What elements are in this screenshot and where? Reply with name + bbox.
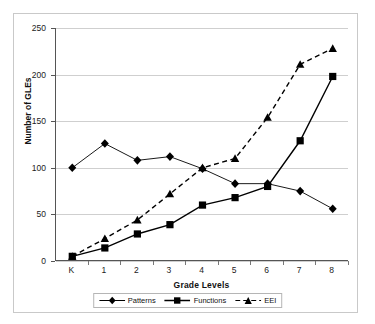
x-tick-label: 8 xyxy=(329,266,334,275)
y-tick-label: 0 xyxy=(8,257,46,266)
square-marker xyxy=(166,221,173,228)
square-icon xyxy=(165,296,191,305)
x-tick-label: 2 xyxy=(134,266,139,275)
diamond-marker xyxy=(231,179,239,188)
diamond-marker xyxy=(329,205,337,214)
x-tick-label: 6 xyxy=(264,266,269,275)
diamond-marker xyxy=(133,156,141,165)
diamond-marker xyxy=(296,187,304,196)
triangle-marker xyxy=(296,60,304,68)
diamond-marker xyxy=(68,164,76,173)
x-tick-label: 3 xyxy=(167,266,172,275)
series-line xyxy=(72,49,332,257)
legend-item-functions: Functions xyxy=(165,296,227,305)
x-tick-label: K xyxy=(68,266,74,275)
y-tick-label: 250 xyxy=(8,24,46,33)
diamond-icon xyxy=(99,296,125,305)
gridline xyxy=(56,261,348,262)
square-marker xyxy=(101,244,108,251)
y-tick-mark xyxy=(51,261,55,262)
x-tick-label: 5 xyxy=(232,266,237,275)
x-tick-mark xyxy=(250,261,251,265)
series-layer xyxy=(56,28,349,261)
plot-area xyxy=(55,28,348,261)
series-eei xyxy=(68,44,337,259)
x-axis-title: Grade Levels xyxy=(55,280,348,290)
square-marker xyxy=(329,73,336,80)
triangle-icon xyxy=(235,296,261,305)
legend-item-eei: EEI xyxy=(235,296,276,305)
x-tick-mark xyxy=(218,261,219,265)
x-tick-mark xyxy=(120,261,121,265)
y-tick-label: 100 xyxy=(8,164,46,173)
x-tick-mark xyxy=(348,261,349,265)
triangle-marker xyxy=(329,44,337,52)
x-tick-mark xyxy=(283,261,284,265)
legend-label-patterns: Patterns xyxy=(128,297,156,305)
legend-label-functions: Functions xyxy=(194,297,227,305)
y-tick-label: 200 xyxy=(8,71,46,80)
y-tick-label: 150 xyxy=(8,117,46,126)
x-tick-mark xyxy=(153,261,154,265)
square-marker xyxy=(134,230,141,237)
x-tick-label: 4 xyxy=(199,266,204,275)
y-tick-label: 50 xyxy=(8,210,46,219)
x-tick-label: 1 xyxy=(101,266,106,275)
x-tick-label: 7 xyxy=(297,266,302,275)
square-marker xyxy=(231,194,238,201)
triangle-marker xyxy=(101,234,109,242)
x-tick-mark xyxy=(185,261,186,265)
diamond-marker xyxy=(166,152,174,161)
chart-legend: Patterns Functions EEI xyxy=(93,293,283,308)
y-axis-title: Number of GLEs xyxy=(23,77,33,144)
legend-label-eei: EEI xyxy=(264,297,276,305)
square-marker xyxy=(264,183,271,190)
square-marker xyxy=(297,137,304,144)
diamond-marker xyxy=(101,139,109,148)
legend-item-patterns: Patterns xyxy=(99,296,156,305)
square-marker xyxy=(199,201,206,208)
triangle-marker xyxy=(263,113,271,121)
x-tick-mark xyxy=(88,261,89,265)
series-line xyxy=(72,144,332,209)
chart-container: Number of GLEs 050100150200250 K12345678… xyxy=(0,0,375,324)
x-tick-mark xyxy=(315,261,316,265)
